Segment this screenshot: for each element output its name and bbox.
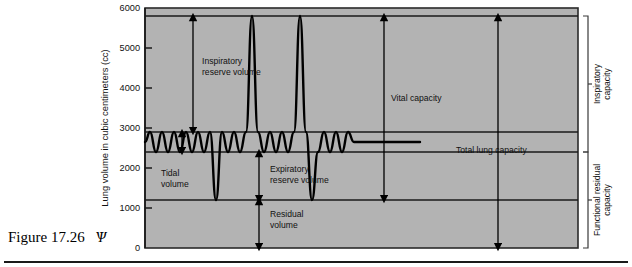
- y-axis-tick-label: 6000: [120, 3, 140, 13]
- functional-residual-capacity-label: Functional residualcapacity: [592, 164, 612, 236]
- y-axis-tick-label: 1000: [120, 203, 140, 213]
- label-line: Residual: [270, 209, 304, 219]
- y-axis-tick-label: 0: [135, 243, 140, 253]
- y-axis-tick-label: 4000: [120, 83, 140, 93]
- label-line: Total lung capacity: [456, 145, 527, 155]
- label-line: reserve volume: [202, 67, 261, 77]
- spirogram-figure: 0100020003000400050006000 Lung volume in…: [0, 0, 632, 267]
- y-axis-tick-label: 2000: [120, 163, 140, 173]
- functional-residual-capacity-bracket: [583, 152, 588, 248]
- label-line: Tidal: [161, 168, 179, 178]
- label-line: volume: [161, 179, 189, 189]
- total-lung-capacity-label: Total lung capacity: [456, 145, 527, 155]
- figure-page: 0100020003000400050006000 Lung volume in…: [0, 0, 632, 267]
- capacity-brackets: [583, 16, 592, 248]
- figure-caption-mark: Ѱ: [95, 229, 106, 245]
- figure-caption-label: Figure 17.26: [8, 229, 85, 245]
- label-line: reserve volume: [270, 175, 329, 185]
- label-line: Vital capacity: [391, 93, 442, 103]
- label-line: volume: [270, 220, 298, 230]
- bracket-label-line: capacity: [602, 68, 612, 100]
- plot-area: [145, 8, 578, 248]
- inspiratory-capacity-bracket: [583, 16, 588, 152]
- bracket-label-line: Functional residual: [592, 164, 602, 236]
- vital-capacity-label: Vital capacity: [391, 93, 442, 103]
- label-line: Inspiratory: [202, 56, 243, 66]
- inspiratory-capacity-label: Inspiratorycapacity: [592, 63, 612, 104]
- y-axis-tick-labels: 0100020003000400050006000: [120, 3, 140, 253]
- y-axis-title: Lung volume in cubic centimeters (cc): [99, 49, 110, 206]
- figure-caption: Figure 17.26 Ѱ: [8, 228, 106, 246]
- label-line: Expiratory: [270, 164, 309, 174]
- capacity-bracket-labels: InspiratorycapacityFunctional residualca…: [592, 63, 612, 236]
- y-axis-tick-label: 5000: [120, 43, 140, 53]
- bracket-label-line: capacity: [602, 184, 612, 216]
- y-axis-tick-label: 3000: [120, 123, 140, 133]
- bracket-label-line: Inspiratory: [592, 63, 602, 104]
